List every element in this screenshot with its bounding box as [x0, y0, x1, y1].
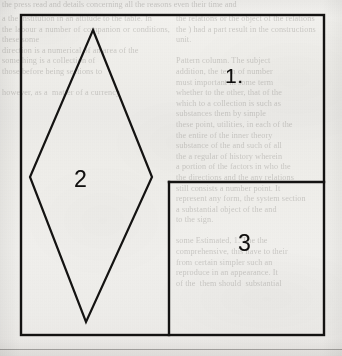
page-bottom-rule	[0, 349, 342, 350]
inscribed-rhombus	[30, 30, 152, 322]
scanned-page: the press read and details concerning al…	[0, 0, 342, 356]
outer-rectangle	[21, 15, 324, 335]
region-label-1: 1.	[225, 64, 244, 88]
region-label-3: 3	[238, 230, 251, 257]
geometry-figure	[0, 0, 342, 356]
region-label-2: 2	[74, 166, 87, 193]
